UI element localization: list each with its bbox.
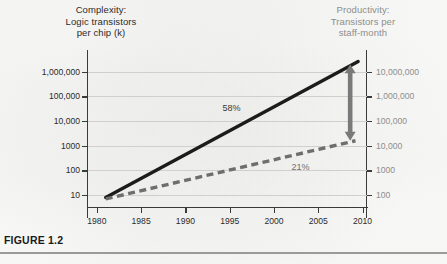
x-tick bbox=[274, 208, 275, 213]
x-axis-label: 2005 bbox=[309, 216, 328, 226]
caption-divider bbox=[0, 252, 447, 254]
y-tick-right bbox=[367, 96, 372, 97]
y-tick-right bbox=[367, 72, 372, 73]
x-axis-label: 1990 bbox=[176, 216, 195, 226]
x-tick bbox=[185, 208, 186, 213]
y-axis-label-left: 100 bbox=[66, 165, 80, 175]
y-tick-left bbox=[82, 170, 87, 171]
y-axis-label-right: 100,000 bbox=[376, 116, 407, 126]
data-lines bbox=[88, 60, 367, 208]
x-tick bbox=[141, 208, 142, 213]
x-axis-label: 2010 bbox=[353, 216, 372, 226]
y-tick-left bbox=[82, 96, 87, 97]
y-axis-label-left: 10 bbox=[70, 190, 80, 200]
y-axis-label-left: 1000 bbox=[61, 141, 80, 151]
y-tick-right bbox=[367, 195, 372, 196]
y-axis-label-right: 10,000 bbox=[376, 141, 402, 151]
y-axis-label-left: 1,000,000 bbox=[42, 67, 80, 77]
y-axis-label-left: 10,000 bbox=[54, 116, 80, 126]
left-axis-title: Complexity: Logic transistors per chip (… bbox=[42, 4, 160, 39]
y-tick-left bbox=[82, 72, 87, 73]
y-tick-left bbox=[82, 195, 87, 196]
complexity-line bbox=[106, 62, 358, 198]
y-tick-left bbox=[82, 121, 87, 122]
y-tick-right bbox=[367, 170, 372, 171]
figure-container: Complexity: Logic transistors per chip (… bbox=[0, 0, 447, 264]
x-tick bbox=[363, 208, 364, 213]
y-tick-right bbox=[367, 121, 372, 122]
growth-label-complexity: 58% bbox=[222, 103, 240, 113]
y-axis-label-right: 1000 bbox=[376, 165, 395, 175]
x-axis-label: 1985 bbox=[132, 216, 151, 226]
x-axis-label: 1980 bbox=[87, 216, 106, 226]
x-axis-label: 1995 bbox=[220, 216, 239, 226]
y-axis-label-right: 10,000,000 bbox=[376, 67, 419, 77]
y-tick-right bbox=[367, 146, 372, 147]
y-axis-label-right: 100 bbox=[376, 190, 390, 200]
right-axis-title: Productivity: Transistors per staff-mont… bbox=[297, 4, 429, 39]
x-tick bbox=[97, 208, 98, 213]
productivity-line bbox=[106, 141, 356, 199]
y-tick-left bbox=[82, 146, 87, 147]
growth-label-productivity: 21% bbox=[292, 162, 310, 172]
y-axis-label-left: 100,000 bbox=[49, 91, 80, 101]
figure-caption: FIGURE 1.2 bbox=[4, 234, 63, 246]
x-tick bbox=[230, 208, 231, 213]
plot-area: 101001001000100010,00010,000100,000100,0… bbox=[88, 60, 367, 208]
x-tick bbox=[318, 208, 319, 213]
y-axis-label-right: 1,000,000 bbox=[376, 91, 414, 101]
x-axis-label: 2000 bbox=[264, 216, 283, 226]
design-gap-arrow bbox=[345, 64, 356, 140]
